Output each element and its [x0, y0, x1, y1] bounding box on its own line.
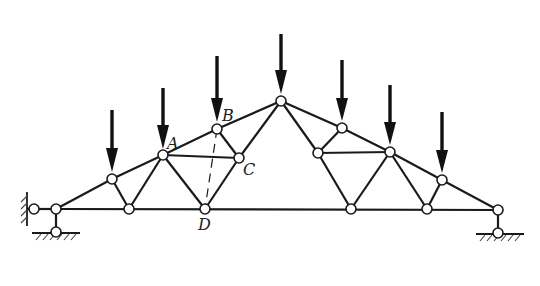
- load-arrow-1: [106, 110, 118, 172]
- truss-diagram: A B C D: [0, 0, 540, 286]
- load-arrow-4: [275, 34, 287, 94]
- node-top-7: [437, 175, 447, 185]
- node-right-end: [493, 205, 503, 215]
- node-b: [212, 124, 222, 134]
- label-a: A: [165, 134, 179, 153]
- label-d: D: [197, 215, 211, 234]
- top-chord: [56, 101, 498, 210]
- truss-nodes: [29, 96, 503, 238]
- node-left-end: [51, 204, 61, 214]
- node-top-1: [107, 174, 117, 184]
- load-arrow-5: [336, 60, 348, 121]
- label-c: C: [243, 160, 255, 179]
- node-support-left: [29, 204, 39, 214]
- left-web-members: [112, 101, 281, 209]
- node-left-ground: [51, 227, 61, 237]
- node-bottom-3: [346, 204, 356, 214]
- load-arrow-6: [384, 85, 396, 145]
- node-apex: [276, 96, 286, 106]
- node-bottom-4: [422, 204, 432, 214]
- node-bottom-1: [124, 204, 134, 214]
- node-top-5: [337, 123, 347, 133]
- node-right-ground: [493, 228, 503, 238]
- right-web-members: [281, 101, 442, 209]
- dashed-member-bd: [205, 129, 217, 209]
- node-d: [200, 204, 210, 214]
- load-arrow-7: [436, 112, 448, 173]
- node-top-6: [385, 147, 395, 157]
- node-right-inner: [313, 148, 323, 158]
- label-b: B: [221, 106, 234, 125]
